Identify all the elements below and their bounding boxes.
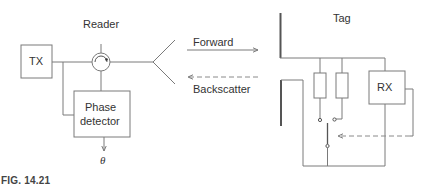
switch-icon [326,123,329,166]
forward-label: Forward [193,37,233,48]
circulator-icon [92,44,110,71]
phase-detector-label-line1: Phase [85,102,116,113]
theta-output-label: θ [100,155,105,166]
tag-title: Tag [333,13,351,24]
phase-detector-label-line2: detector [80,116,120,127]
backscatter-label: Backscatter [193,84,250,95]
reader-title: Reader [83,19,119,30]
reader-antenna-icon [153,40,175,84]
load-resistor-2 [336,73,348,98]
figure-caption: FIG. 14.21 [1,175,50,186]
tag-antenna-icon [281,13,282,126]
load-resistor-1 [314,73,326,98]
phase-detector-box [74,91,130,137]
tx-label: TX [29,56,43,67]
rx-label: RX [377,82,392,93]
